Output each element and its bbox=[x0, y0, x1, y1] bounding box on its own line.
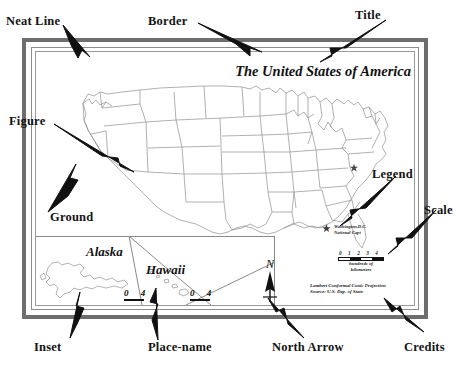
arrow-neat-line bbox=[63, 25, 90, 58]
annotation-label-legend: Legend bbox=[372, 167, 413, 182]
arrow-place-name bbox=[150, 288, 158, 340]
arrow-ground bbox=[48, 164, 78, 212]
arrow-title bbox=[320, 20, 386, 62]
annotation-label-north-arrow: North Arrow bbox=[272, 340, 344, 355]
annotation-arrows bbox=[0, 0, 471, 365]
annotation-label-credits: Credits bbox=[404, 340, 445, 355]
arrow-figure bbox=[54, 124, 134, 172]
annotation-label-neat-line: Neat Line bbox=[6, 14, 60, 29]
arrow-legend bbox=[340, 176, 396, 226]
annotation-label-inset: Inset bbox=[34, 340, 61, 355]
annotation-label-place-name: Place-name bbox=[148, 340, 212, 355]
arrow-inset bbox=[70, 292, 84, 338]
arrow-border bbox=[198, 23, 262, 56]
arrow-north-arrow bbox=[268, 298, 304, 338]
annotation-label-border: Border bbox=[148, 14, 187, 29]
annotation-label-title: Title bbox=[355, 8, 381, 23]
map-anatomy-diagram: The United States of America bbox=[0, 0, 471, 365]
annotation-label-figure: Figure bbox=[9, 114, 45, 129]
annotation-label-ground: Ground bbox=[50, 210, 93, 225]
arrow-credits bbox=[384, 298, 424, 332]
annotation-label-scale: Scale bbox=[424, 203, 453, 218]
